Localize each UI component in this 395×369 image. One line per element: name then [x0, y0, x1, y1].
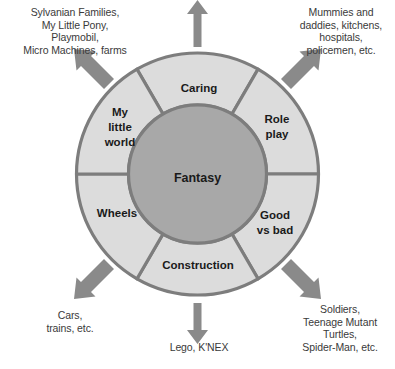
segment-label-wheels: Wheels — [97, 207, 137, 219]
segment-label-role-play: Role — [265, 113, 290, 125]
segment-label-role-play-line2: play — [265, 128, 289, 140]
callout-my-little-world-examples: Sylvanian Families, My Little Pony, Play… — [2, 6, 148, 56]
arrow-up-icon — [187, 0, 208, 47]
arrow-down-left-icon — [74, 259, 114, 299]
segment-label-my-little-world: My — [112, 106, 129, 118]
callout-good-vs-bad-examples: Soldiers, Teenage Mutant Turtles, Spider… — [286, 303, 394, 353]
hub-label: Fantasy — [174, 171, 221, 185]
segment-label-my-little-world-line3: world — [104, 136, 136, 148]
arrow-down-icon — [187, 303, 208, 344]
segment-label-good-vs-bad: Good — [260, 209, 290, 221]
callout-wheels-examples: Cars, trains, etc. — [14, 309, 126, 334]
segment-label-my-little-world-line2: little — [108, 121, 132, 133]
play-types-wheel-diagram: Fantasy Caring Role play Good vs bad Con… — [0, 0, 395, 369]
segment-label-construction: Construction — [162, 259, 234, 271]
arrow-down-right-icon — [281, 259, 321, 299]
callout-role-play-examples: Mummies and daddies, kitchens, hospitals… — [288, 6, 394, 56]
segment-label-good-vs-bad-line2: vs bad — [257, 224, 293, 236]
segment-label-caring: Caring — [181, 82, 217, 94]
callout-construction-examples: Lego, K'NEX — [128, 341, 270, 354]
